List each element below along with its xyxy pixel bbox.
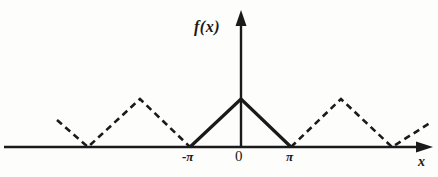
x-tick-label-zero: 0: [235, 148, 243, 165]
x-axis: [4, 142, 433, 153]
x-tick-label-neg-pi: -π: [182, 149, 193, 165]
x-axis-arrowhead: [416, 142, 433, 153]
y-axis-arrowhead: [236, 10, 247, 26]
x-axis-label: x: [418, 154, 425, 170]
figure-triangular-wave: f(x) x -π 0 π: [0, 0, 438, 177]
curve-periodic-extension-left: [57, 99, 190, 147]
y-axis-label: f(x): [194, 18, 220, 36]
x-tick-label-pi: π: [286, 149, 293, 165]
curve-periodic-extension-right: [291, 99, 430, 147]
y-axis: [236, 10, 247, 147]
